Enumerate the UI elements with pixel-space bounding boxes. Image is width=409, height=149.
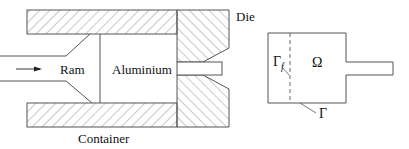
diagram-canvas: Die Ram Aluminium Container Ω Γf Γ (0, 0, 409, 149)
label-ram: Ram (60, 62, 85, 77)
label-die: Die (236, 9, 255, 24)
ram-direction-arrow-icon (16, 67, 42, 72)
label-gamma: Γ (319, 106, 327, 121)
label-gamma-f: Γf (273, 54, 285, 72)
container-top (27, 10, 177, 34)
computational-domain (268, 33, 393, 113)
label-aluminium: Aluminium (112, 62, 172, 77)
label-container: Container (78, 131, 130, 146)
boundary-leader (300, 103, 316, 113)
label-omega: Ω (312, 55, 322, 70)
extruded-profile (177, 62, 222, 75)
container-bottom (27, 103, 177, 127)
